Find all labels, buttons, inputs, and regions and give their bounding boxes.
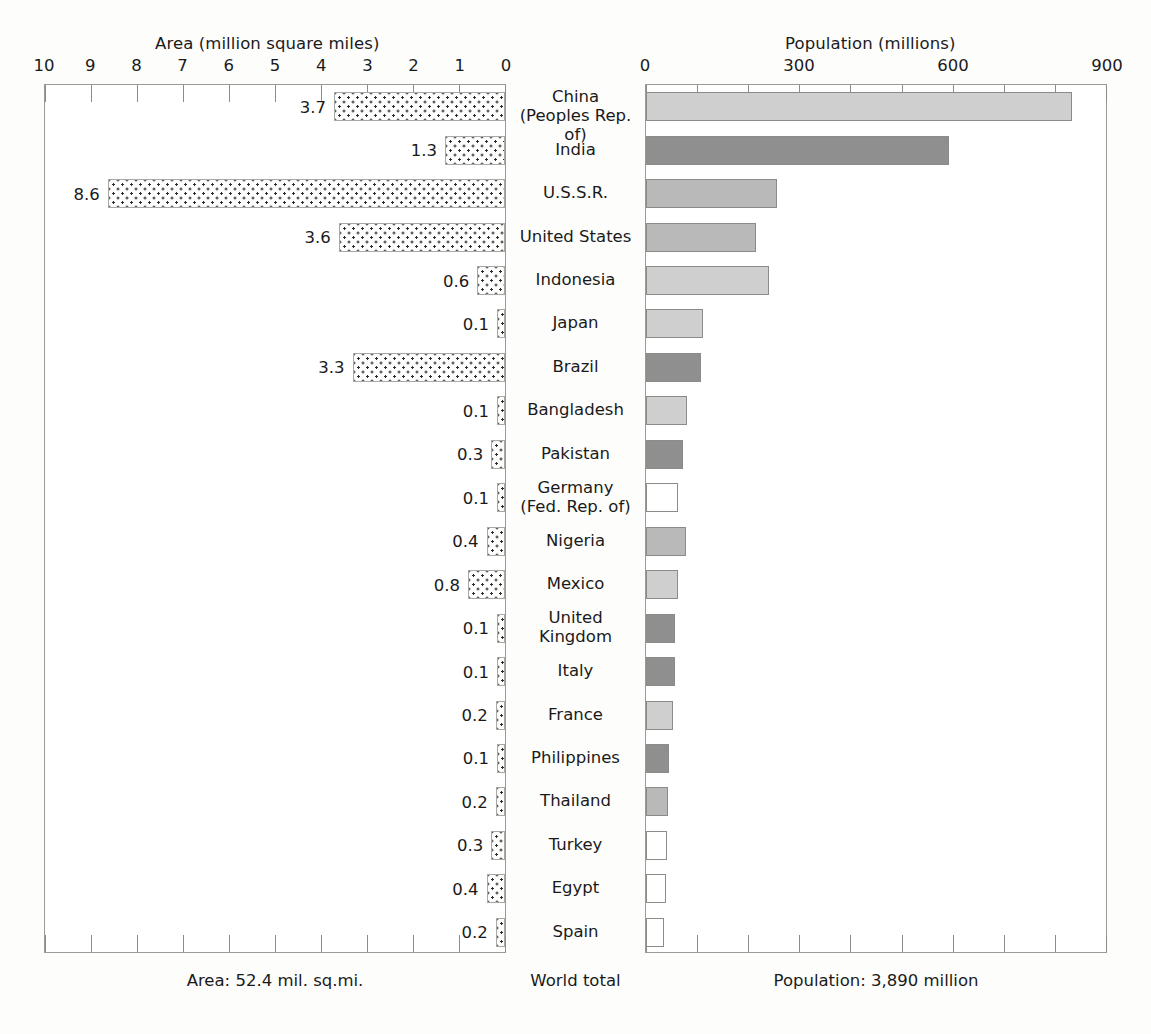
population-bar[interactable] <box>646 266 769 295</box>
area-tick-label: 7 <box>177 56 188 75</box>
population-bar[interactable] <box>646 309 703 338</box>
country-label-line1: Germany <box>538 478 614 497</box>
population-total-footer: Population: 3,890 million <box>645 971 1107 990</box>
country-label: Turkey <box>506 835 645 854</box>
country-label: China(Peoples Rep. of) <box>506 87 645 144</box>
country-label-line1: Nigeria <box>546 531 605 550</box>
area-bar[interactable] <box>496 787 505 816</box>
population-bar[interactable] <box>646 440 683 469</box>
population-bar[interactable] <box>646 353 701 382</box>
population-bar[interactable] <box>646 614 675 643</box>
area-bar[interactable] <box>468 570 505 599</box>
country-label: Spain <box>506 922 645 941</box>
area-value-label: 3.3 <box>318 358 344 377</box>
country-label: Mexico <box>506 574 645 593</box>
population-bar[interactable] <box>646 136 949 165</box>
area-bar[interactable] <box>497 396 505 425</box>
population-plot-area: Population per square mile Under 100100-… <box>645 84 1107 953</box>
population-bar-row <box>646 396 1106 425</box>
area-bar[interactable] <box>497 309 505 338</box>
population-bar-rows <box>646 85 1106 952</box>
country-label-line1: China <box>552 87 599 106</box>
population-bar-row <box>646 657 1106 686</box>
population-tick-label: 300 <box>783 56 815 75</box>
population-tick-mark <box>1106 935 1107 952</box>
area-bar-row: 0.8 <box>45 570 505 599</box>
country-label-line1: Brazil <box>552 357 598 376</box>
area-bar[interactable] <box>339 223 505 252</box>
area-value-label: 0.6 <box>443 271 469 290</box>
population-tick-mark <box>1106 85 1107 102</box>
country-label: Germany(Fed. Rep. of) <box>506 478 645 516</box>
population-bar[interactable] <box>646 483 678 512</box>
population-axis-title: Population (millions) <box>785 34 955 53</box>
population-axis-tick-labels: 0300600900 <box>600 56 1151 76</box>
area-bar[interactable] <box>497 657 505 686</box>
population-bar[interactable] <box>646 179 777 208</box>
area-bar-row: 0.1 <box>45 744 505 773</box>
area-value-label: 0.1 <box>463 401 489 420</box>
population-bar[interactable] <box>646 787 668 816</box>
population-bar[interactable] <box>646 918 664 947</box>
population-bar-row <box>646 179 1106 208</box>
area-bar[interactable] <box>108 179 505 208</box>
area-tick-label: 10 <box>34 56 55 75</box>
country-label-line1: France <box>548 705 603 724</box>
population-tick-label: 900 <box>1091 56 1123 75</box>
area-bar-row: 0.4 <box>45 874 505 903</box>
country-label-line2: Kingdom <box>506 627 645 646</box>
area-bar[interactable] <box>496 918 505 947</box>
area-axis-tick-labels: 109876543210 <box>0 56 560 76</box>
area-value-label: 8.6 <box>73 184 99 203</box>
area-bar[interactable] <box>353 353 505 382</box>
country-label: Nigeria <box>506 531 645 550</box>
area-bar[interactable] <box>491 831 505 860</box>
population-bar-row <box>646 831 1106 860</box>
population-bar[interactable] <box>646 831 667 860</box>
population-bar[interactable] <box>646 570 678 599</box>
area-bar-row: 0.2 <box>45 701 505 730</box>
country-label-line1: Thailand <box>540 791 611 810</box>
area-tick-label: 0 <box>501 56 512 75</box>
population-bar[interactable] <box>646 744 669 773</box>
chart-canvas: Area (million square miles) Population (… <box>0 0 1151 1034</box>
area-bar[interactable] <box>487 527 505 556</box>
population-tick-label: 600 <box>937 56 969 75</box>
area-bar[interactable] <box>445 136 505 165</box>
country-label: Philippines <box>506 748 645 767</box>
population-bar-row <box>646 787 1106 816</box>
country-label: U.S.S.R. <box>506 183 645 202</box>
area-value-label: 0.3 <box>457 836 483 855</box>
country-label-line1: Indonesia <box>536 270 616 289</box>
population-bar[interactable] <box>646 701 673 730</box>
area-bar[interactable] <box>487 874 505 903</box>
area-value-label: 0.1 <box>463 619 489 638</box>
population-bar[interactable] <box>646 527 686 556</box>
area-bar[interactable] <box>334 92 505 121</box>
country-label-line1: U.S.S.R. <box>543 183 608 202</box>
area-plot-area: 3.71.38.63.60.60.13.30.10.30.10.40.80.10… <box>44 84 506 953</box>
country-label: UnitedKingdom <box>506 608 645 646</box>
area-bar[interactable] <box>477 266 505 295</box>
area-value-label: 0.4 <box>452 879 478 898</box>
population-bar-row <box>646 92 1106 121</box>
country-label-line1: India <box>555 140 596 159</box>
area-bar[interactable] <box>491 440 505 469</box>
population-bar-row <box>646 309 1106 338</box>
area-bar-row: 0.4 <box>45 527 505 556</box>
country-label: Egypt <box>506 878 645 897</box>
population-bar[interactable] <box>646 874 666 903</box>
country-label-line1: Pakistan <box>541 444 610 463</box>
area-bar-row: 0.2 <box>45 787 505 816</box>
area-bar-row: 0.1 <box>45 657 505 686</box>
population-bar[interactable] <box>646 223 756 252</box>
area-bar[interactable] <box>497 744 505 773</box>
area-bar[interactable] <box>497 614 505 643</box>
population-bar[interactable] <box>646 92 1072 121</box>
population-bar[interactable] <box>646 396 687 425</box>
area-bar-row: 1.3 <box>45 136 505 165</box>
area-bar[interactable] <box>496 701 505 730</box>
area-bar-row: 0.1 <box>45 483 505 512</box>
population-bar[interactable] <box>646 657 675 686</box>
area-bar[interactable] <box>497 483 505 512</box>
